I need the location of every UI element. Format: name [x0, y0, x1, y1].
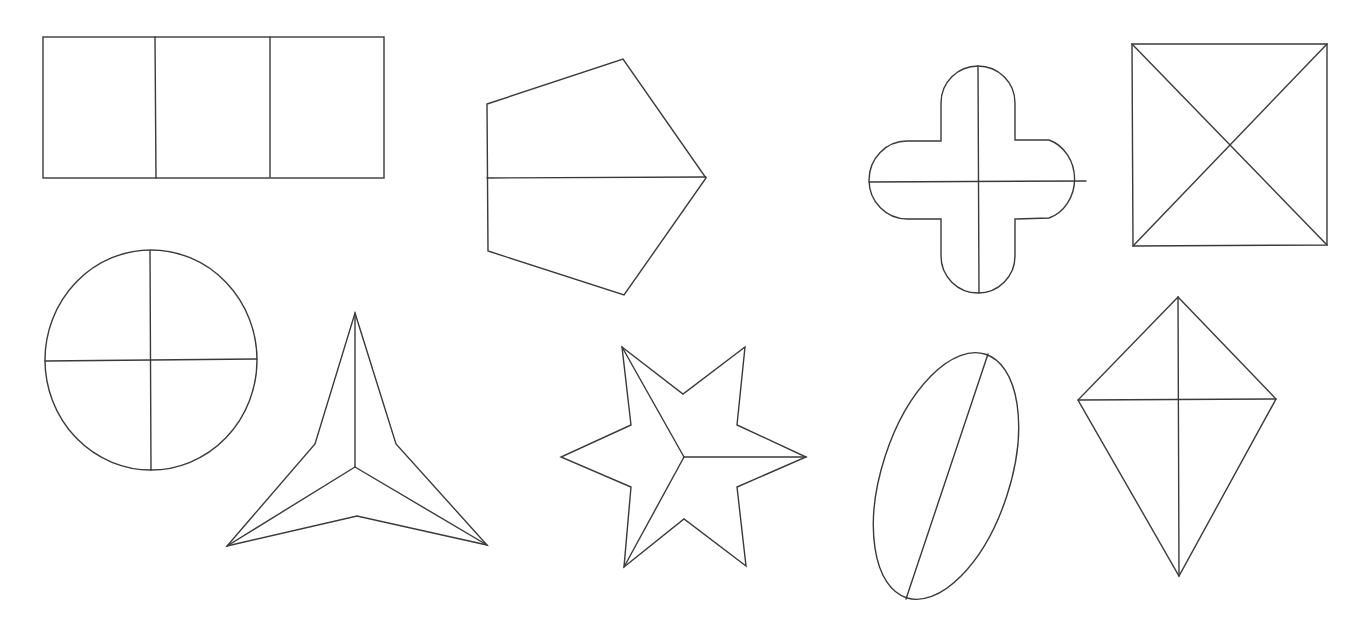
kite-horizontal-divider [1078, 399, 1276, 400]
pentagon-shape: Pentagon divided into two parts [487, 59, 706, 295]
three-point-star-outline [227, 313, 487, 546]
rectangle-shape: Rectangle divided into three equal parts [43, 37, 384, 178]
kite-shape: Kite divided into four parts [1078, 297, 1276, 576]
six-point-star-divider-3 [624, 457, 684, 567]
ellipse-outline [846, 334, 1047, 617]
rounded-cross-horizontal-divider [869, 181, 1086, 182]
kite-outline [1078, 297, 1276, 576]
rounded-cross-outline [869, 66, 1075, 293]
rectangle-divider-1 [155, 37, 156, 178]
six-point-star-divider-1 [622, 347, 684, 457]
pentagon-divider [487, 177, 706, 178]
circle-horizontal-divider [45, 359, 257, 361]
shapes-svg: Rectangle divided into three equal parts… [0, 0, 1360, 630]
three-point-star-divider-3 [355, 467, 487, 545]
shapes-figure: Rectangle divided into three equal parts… [0, 0, 1360, 630]
six-point-star-shape: Six-pointed star divided into three part… [561, 347, 806, 567]
kite-vertical-divider [1178, 297, 1179, 576]
three-point-star-divider-2 [227, 467, 355, 546]
rounded-cross-shape: Rounded cross divided into four parts [869, 66, 1086, 293]
rounded-cross-vertical-divider [978, 66, 979, 293]
ellipse-shape: Tilted ellipse divided into two parts [846, 334, 1047, 617]
three-point-star-shape: Three-pointed star divided into three pa… [227, 313, 487, 546]
square-shape: Square divided by diagonals into four pa… [1132, 44, 1327, 246]
rectangle-outline [43, 37, 384, 178]
circle-shape: Circle divided into four equal parts [45, 250, 257, 470]
